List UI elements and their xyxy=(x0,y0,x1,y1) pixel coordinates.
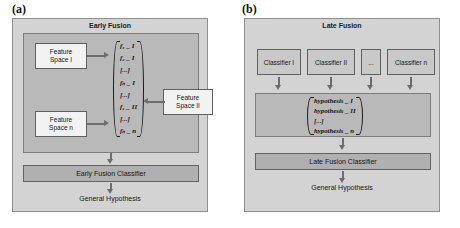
vector-rows: hypothesis _ I hypothesis _ II [...] hyp… xyxy=(312,95,358,137)
classifier-box-1-label: Classifier I xyxy=(264,59,294,66)
feature-space-2-line2: Space II xyxy=(176,102,200,110)
feature-space-n-box[interactable]: Feature Space n xyxy=(35,111,87,137)
classifier-box-1[interactable]: Classifier I xyxy=(257,49,301,75)
late-fusion-container: Late Fusion Classifier I Classifier II .… xyxy=(244,18,440,212)
panel-tag-b: (b) xyxy=(242,2,257,17)
late-fusion-hypothesis-vector: hypothesis _ I hypothesis _ II [...] hyp… xyxy=(305,95,365,137)
panel-late-fusion: (b) Late Fusion Classifier I Classifier … xyxy=(230,0,460,228)
early-fusion-title: Early Fusion xyxy=(13,22,207,29)
early-fusion-classifier-bar[interactable]: Early Fusion Classifier xyxy=(23,165,199,182)
vector-paren-left xyxy=(305,95,312,137)
vector-row: hypothesis _ II xyxy=(314,106,356,116)
classifier-box-n-label: Classifier n xyxy=(395,59,427,66)
arrow-clfn-head xyxy=(407,85,413,90)
late-fusion-classifier-label: Late Fusion Classifier xyxy=(309,158,376,165)
early-fusion-feature-vector: f₁ _ I f₂ _ I [...] fₙ _ I [...] f₁ _ II… xyxy=(111,39,146,139)
classifier-box-ellipsis-label: ... xyxy=(368,59,373,66)
vector-paren-right xyxy=(358,95,365,137)
feature-space-1-line2: Space I xyxy=(50,56,72,64)
arrow-fsn-head xyxy=(104,120,109,126)
arrow-hypotheses-to-classifier-head xyxy=(339,145,345,150)
arrow-group-to-classifier-head xyxy=(107,159,113,164)
vector-row: [...] xyxy=(120,64,137,76)
arrow-fs2-to-vector xyxy=(147,101,165,103)
classifier-box-2[interactable]: Classifier II xyxy=(307,49,355,75)
late-fusion-title: Late Fusion xyxy=(245,22,439,29)
vector-rows: f₁ _ I f₂ _ I [...] fₙ _ I [...] f₁ _ II… xyxy=(118,39,139,139)
feature-space-n-line2: Space n xyxy=(49,124,73,132)
classifier-box-n[interactable]: Classifier n xyxy=(387,49,435,75)
vector-paren-right xyxy=(139,39,146,139)
arrow-fs1-to-vector xyxy=(87,55,105,57)
feature-space-1-line1: Feature xyxy=(50,48,72,56)
vector-row: fₙ _ n xyxy=(120,125,137,137)
classifier-box-ellipsis[interactable]: ... xyxy=(361,49,381,75)
vector-row: [...] xyxy=(120,113,137,125)
panel-early-fusion: (a) Early Fusion Feature Space I Feature… xyxy=(0,0,230,228)
vector-paren-left xyxy=(111,39,118,139)
feature-space-1-box[interactable]: Feature Space I xyxy=(35,43,87,69)
early-fusion-output-label: General Hypothesis xyxy=(13,195,207,202)
arrow-classifier-to-output-head xyxy=(107,189,113,194)
arrow-clf-ellipsis-head xyxy=(367,85,373,90)
vector-row: fₙ _ I xyxy=(120,77,137,89)
panel-tag-a: (a) xyxy=(12,2,26,17)
feature-space-n-line1: Feature xyxy=(50,116,72,124)
vector-row: f₁ _ I xyxy=(120,40,137,52)
vector-row: hypothesis _ I xyxy=(314,96,356,106)
arrow-late-classifier-to-output-head xyxy=(339,178,345,183)
arrow-clf2-head xyxy=(327,85,333,90)
vector-row: f₁ _ II xyxy=(120,101,137,113)
late-fusion-classifier-bar[interactable]: Late Fusion Classifier xyxy=(255,153,431,170)
late-fusion-output-label: General Hypothesis xyxy=(245,184,439,191)
vector-row: [...] xyxy=(314,116,356,126)
early-fusion-container: Early Fusion Feature Space I Feature Spa… xyxy=(12,18,208,212)
vector-row: hypothesis _ n xyxy=(314,126,356,136)
vector-row: f₂ _ I xyxy=(120,52,137,64)
arrow-fsn-to-vector xyxy=(87,123,105,125)
classifier-box-2-label: Classifier II xyxy=(315,59,347,66)
early-fusion-classifier-label: Early Fusion Classifier xyxy=(76,170,146,177)
vector-row: [...] xyxy=(120,89,137,101)
arrow-clf1-head xyxy=(275,85,281,90)
feature-space-2-line1: Feature xyxy=(177,94,199,102)
feature-space-2-box[interactable]: Feature Space II xyxy=(163,89,213,115)
arrow-fs1-head xyxy=(104,52,109,58)
